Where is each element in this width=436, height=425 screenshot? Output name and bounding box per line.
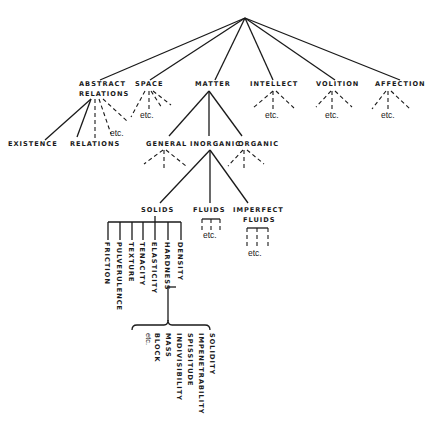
affection-edges: [372, 91, 410, 110]
node-matter: MATTER: [195, 80, 231, 88]
node-abstract-label-1: ABSTRACT: [79, 80, 126, 88]
node-texture: TEXTURE: [127, 242, 135, 283]
organic-edges: [228, 150, 264, 170]
imperfect-fluids-bracket: [247, 228, 268, 248]
concept-hierarchy-tree: ABSTRACT RELATIONS SPACE MATTER INTELLEC…: [0, 0, 436, 425]
space-etc: etc.: [140, 110, 154, 120]
node-impenetrability: IMPENETRABILITY: [197, 333, 205, 414]
node-friction: FRICTION: [103, 242, 111, 285]
matter-edges: [169, 91, 242, 136]
node-organic: ORGANIC: [238, 140, 279, 148]
hardness-etc: etc.: [144, 333, 153, 345]
node-density: DENSITY: [176, 242, 184, 281]
node-elasticity: ELASTICITY: [150, 242, 158, 294]
node-affection: AFFECTION: [375, 80, 426, 88]
node-tenacity: TENACITY: [138, 242, 146, 286]
solids-bracket: [108, 216, 181, 240]
node-inorganic: INORGANIC: [190, 140, 241, 148]
node-intellect: INTELLECT: [250, 80, 298, 88]
node-relations: RELATIONS: [70, 140, 120, 148]
node-fluids: FLUIDS: [193, 206, 226, 214]
node-imperfect-label-2: FLUIDS: [243, 216, 276, 224]
node-block: BLOCK: [153, 333, 161, 363]
node-hardness: HARDNESS: [163, 242, 171, 290]
node-imperfect-label-1: IMPERFECT: [233, 206, 284, 214]
abstract-etc: etc.: [110, 128, 124, 138]
node-space: SPACE: [135, 80, 163, 88]
node-general: GENERAL: [146, 140, 187, 148]
node-volition: VOLITION: [316, 80, 359, 88]
intellect-etc: etc.: [265, 110, 279, 120]
node-existence: EXISTENCE: [8, 140, 58, 148]
node-mass: MASS: [164, 333, 172, 358]
node-pulverulence: PULVERULENCE: [115, 242, 123, 311]
node-indivisibility: INDIVISIBILITY: [175, 333, 183, 401]
node-solids: SOLIDS: [141, 206, 174, 214]
affection-etc: etc.: [381, 110, 395, 120]
node-spissitude: SPISSITUDE: [186, 333, 194, 387]
node-solidity: SOLIDITY: [208, 333, 216, 375]
hardness-brace: [132, 287, 210, 330]
node-abstract-label-2: RELATIONS: [79, 90, 129, 98]
root-edges: [100, 18, 400, 80]
imperfect-fluids-etc: etc.: [248, 248, 262, 258]
intellect-edges: [253, 91, 294, 110]
volition-etc: etc.: [325, 110, 339, 120]
general-edges: [144, 150, 186, 170]
inorganic-edges: [160, 150, 248, 203]
volition-edges: [316, 91, 352, 110]
fluids-etc: etc.: [203, 230, 217, 240]
